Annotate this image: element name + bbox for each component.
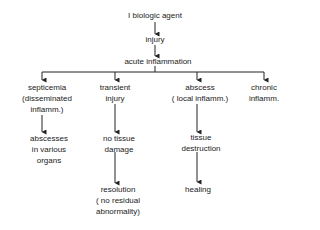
line: resolution xyxy=(96,184,140,195)
line: septicemia xyxy=(22,82,72,93)
line: transient xyxy=(100,82,131,93)
line: organs xyxy=(30,155,68,166)
line: damage xyxy=(103,144,135,155)
line: ( local inflamm.) xyxy=(172,93,228,104)
abscess-node: abscess ( local inflamm.) xyxy=(172,82,228,104)
line: ( no residual xyxy=(96,195,140,206)
line: tissue xyxy=(181,132,220,143)
root-node: I biologic agent xyxy=(128,10,182,21)
line: healing xyxy=(185,184,211,195)
tissue-destruction-node: tissue destruction xyxy=(181,132,220,154)
septicemia-node: septicemia (disseminated inflamm.) xyxy=(22,82,72,115)
healing-node: healing xyxy=(185,184,211,195)
acute-inflammation-node: acute inflammation xyxy=(124,56,191,67)
abscesses-various-organs-node: abscesses in various organs xyxy=(30,133,68,166)
line: in various xyxy=(30,144,68,155)
line: inflamm.) xyxy=(22,104,72,115)
injury-node: injury xyxy=(145,34,164,45)
transient-injury-node: transient injury xyxy=(100,82,131,104)
no-tissue-damage-node: no tissue damage xyxy=(103,133,135,155)
line: abnormality) xyxy=(96,206,140,217)
line: no tissue xyxy=(103,133,135,144)
line: injury xyxy=(100,93,131,104)
line: abscess xyxy=(172,82,228,93)
line: chronic xyxy=(249,82,279,93)
line: (disseminated xyxy=(22,93,72,104)
chronic-inflammation-node: chronic inflamm. xyxy=(249,82,279,104)
line: abscesses xyxy=(30,133,68,144)
resolution-node: resolution ( no residual abnormality) xyxy=(96,184,140,217)
line: destruction xyxy=(181,143,220,154)
line: inflamm. xyxy=(249,93,279,104)
